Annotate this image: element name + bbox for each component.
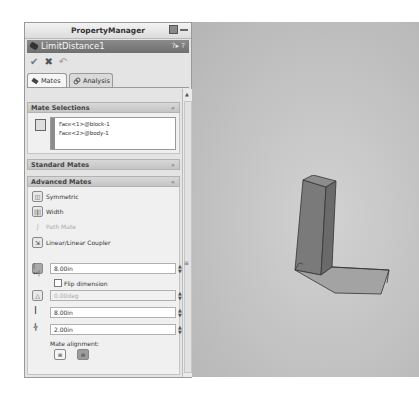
mate-feature-icon — [29, 41, 39, 50]
graphics-viewport[interactable] — [183, 22, 419, 377]
panel-scrollbar[interactable]: ▲ ≡ — [182, 89, 192, 377]
help-icon[interactable]: ?▸ ? — [172, 40, 185, 53]
section-title: Mate Selections — [31, 104, 90, 112]
mate-alignment-label: Mate alignment: — [50, 340, 99, 347]
property-manager-title: PropertyManager — [25, 23, 191, 39]
min-distance-input[interactable]: 2.00in — [50, 324, 176, 335]
l-shape-model[interactable] — [283, 175, 393, 295]
feature-name: LimitDistance1 — [41, 41, 105, 51]
symmetric-icon: ◫ — [32, 191, 43, 202]
scroll-thumb[interactable] — [184, 101, 192, 373]
scroll-up-icon[interactable]: ▲ — [185, 91, 189, 97]
option-label: Path Mate — [46, 223, 76, 230]
width-icon: |‖| — [32, 206, 43, 217]
expand-icon[interactable]: » — [171, 160, 175, 170]
analysis-icon — [73, 77, 81, 85]
action-buttons: ✔ ✖ ↶ — [30, 56, 67, 68]
section-title: Advanced Mates — [31, 178, 91, 186]
tab-label: Mates — [41, 77, 61, 85]
distance-input[interactable]: 8.00in — [50, 263, 176, 274]
symmetric-option[interactable]: ◫ Symmetric — [32, 191, 79, 202]
property-manager-panel: PropertyManager LimitDistance1 ?▸ ? ✔ ✖ … — [24, 22, 192, 378]
option-label: Linear/Linear Coupler — [46, 239, 111, 246]
tab-mates[interactable]: Mates — [27, 73, 67, 87]
width-option[interactable]: |‖| Width — [32, 206, 63, 217]
mate-selection-icon — [35, 119, 46, 131]
mates-icon — [31, 77, 39, 85]
selection-item[interactable]: Face<2>@body-1 — [59, 130, 109, 136]
flip-dimension-checkbox[interactable]: Flip dimension — [54, 279, 108, 287]
selection-list[interactable]: Face<1>@block-1 Face<2>@body-1 — [50, 117, 176, 150]
path-mate-option: ∫ Path Mate — [32, 221, 76, 232]
anti-aligned-button[interactable]: ⊟ — [77, 349, 89, 360]
selection-item[interactable]: Face<1>@block-1 — [59, 121, 110, 127]
collapse-icon[interactable]: « — [171, 177, 175, 187]
option-label: Width — [46, 208, 63, 215]
mate-selections-header[interactable]: Mate Selections « — [27, 102, 180, 113]
option-label: Symmetric — [46, 193, 79, 200]
angle-icon[interactable]: △ — [32, 290, 43, 301]
pin-icon[interactable] — [180, 29, 188, 31]
standard-mates-header[interactable]: Standard Mates » — [27, 159, 180, 170]
ok-button[interactable]: ✔ — [30, 56, 38, 68]
advanced-mates-body: ◫ Symmetric |‖| Width ∫ Path Mate ⇲ Line… — [27, 187, 180, 375]
max-distance-input[interactable]: 8.00in — [50, 307, 176, 318]
limit-distance-icon[interactable]: |↔| — [32, 263, 43, 274]
text-toggle-icon[interactable] — [169, 25, 178, 34]
title-text: PropertyManager — [71, 26, 145, 35]
tab-label: Analysis — [83, 77, 110, 85]
section-title: Standard Mates — [31, 161, 89, 169]
tab-bar: Mates Analysis — [27, 73, 189, 88]
checkbox-label: Flip dimension — [64, 280, 108, 287]
max-distance-icon: I — [34, 305, 37, 316]
angle-input[interactable]: 0.00deg — [50, 290, 176, 301]
collapse-icon[interactable]: « — [171, 103, 175, 113]
path-mate-icon: ∫ — [32, 221, 43, 232]
mate-selections-body: Face<1>@block-1 Face<2>@body-1 — [27, 113, 180, 154]
checkbox[interactable] — [54, 279, 62, 287]
linear-coupler-option[interactable]: ⇲ Linear/Linear Coupler — [32, 237, 111, 248]
min-distance-icon: ⫩ — [33, 323, 38, 334]
cancel-button[interactable]: ✖ — [44, 56, 52, 68]
tab-analysis[interactable]: Analysis — [69, 73, 113, 87]
selection-stripe — [51, 118, 55, 149]
feature-name-bar: LimitDistance1 ?▸ ? — [27, 40, 189, 53]
scroll-grip-icon: ≡ — [184, 259, 189, 266]
linear-coupler-icon: ⇲ — [32, 237, 43, 248]
undo-button[interactable]: ↶ — [59, 56, 67, 68]
advanced-mates-header[interactable]: Advanced Mates « — [27, 176, 180, 187]
aligned-button[interactable]: ⊞ — [54, 349, 66, 360]
